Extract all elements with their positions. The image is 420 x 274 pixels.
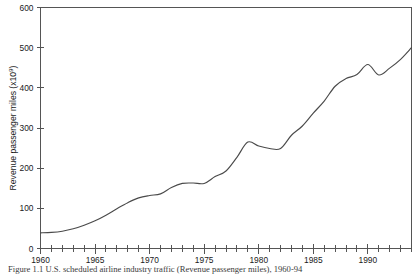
y-tick-label: 500 [20,43,34,53]
y-axis-title: Revenue passenger miles (x109) [7,65,18,190]
y-tick-label: 100 [20,203,34,213]
y-tick-label: 400 [20,83,34,93]
y-tick-label: 0 [29,244,34,254]
y-axis-title-base: Revenue passenger miles (x10 [8,72,18,191]
svg-text:Revenue passenger miles (x109): Revenue passenger miles (x109) [7,65,18,190]
figure-caption: Figure 1.1 U.S. scheduled airline indust… [8,264,412,274]
y-tick-label: 200 [20,163,34,173]
y-axis-title-tail: ) [8,65,18,68]
y-tick-label: 300 [20,123,34,133]
y-tick-label: 600 [20,3,34,13]
